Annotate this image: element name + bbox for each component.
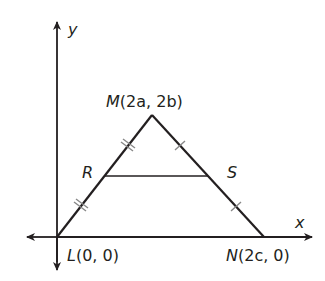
point-R-label: R bbox=[82, 163, 93, 182]
y-axis-label: y bbox=[67, 20, 78, 39]
x-axis-label: x bbox=[294, 213, 305, 232]
point-M-label: M(2a, 2b) bbox=[106, 92, 183, 111]
coordinate-diagram: y x M(2a, 2b) R S L(0, 0) N(2c, 0) bbox=[0, 0, 325, 281]
point-S-label: S bbox=[227, 163, 237, 182]
point-L-label: L(0, 0) bbox=[67, 246, 119, 265]
point-N-label: N(2c, 0) bbox=[226, 246, 290, 265]
